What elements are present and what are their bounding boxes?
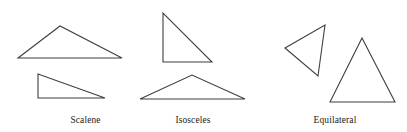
group-scalene xyxy=(18,26,122,98)
triangle-figure: Scalene Isosceles Equilateral xyxy=(0,0,407,132)
scalene-right-triangle xyxy=(38,74,105,98)
caption-scalene: Scalene xyxy=(38,114,133,126)
isosceles-right-triangle xyxy=(163,13,212,62)
caption-equilateral: Equilateral xyxy=(285,114,385,126)
isosceles-wide-triangle xyxy=(140,75,245,99)
equilateral-upright-triangle xyxy=(330,38,395,102)
scalene-obtuse-triangle xyxy=(18,26,122,58)
triangle-shapes-canvas xyxy=(0,0,407,132)
equilateral-tilted-triangle xyxy=(285,25,325,76)
group-isosceles xyxy=(140,13,245,99)
caption-isosceles: Isosceles xyxy=(148,114,238,126)
group-equilateral xyxy=(285,25,395,102)
